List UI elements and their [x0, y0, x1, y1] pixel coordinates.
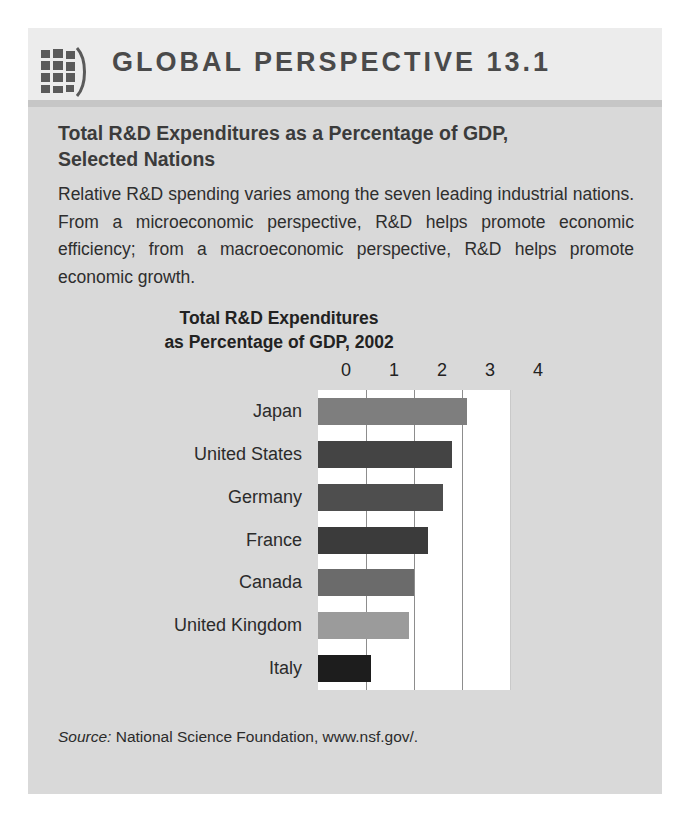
bar-france [318, 527, 428, 554]
chart-title-line-2: as Percentage of GDP, 2002 [28, 330, 530, 354]
x-axis-tick-labels: 01234 [318, 360, 548, 386]
x-tick-3: 3 [478, 360, 502, 381]
box-body-text: Relative R&D spending varies among the s… [58, 181, 634, 291]
y-axis-category-labels: JapanUnited StatesGermanyFranceCanadaUni… [58, 390, 310, 690]
category-label-united-kingdom: United Kingdom [174, 612, 302, 639]
gridline-3 [462, 390, 463, 690]
plot-area [318, 390, 510, 690]
x-tick-0: 0 [334, 360, 358, 381]
box-subtitle: Total R&D Expenditures as a Percentage o… [58, 120, 528, 172]
bar-united-states [318, 441, 452, 468]
category-label-canada: Canada [239, 569, 302, 596]
chart: Total R&D Expenditures as Percentage of … [28, 306, 662, 706]
category-label-italy: Italy [269, 655, 302, 682]
box-header-title: GLOBAL PERSPECTIVE 13.1 [112, 47, 551, 78]
bar-japan [318, 398, 467, 425]
bar-italy [318, 655, 371, 682]
box-header-band: GLOBAL PERSPECTIVE 13.1 [28, 28, 662, 100]
category-label-japan: Japan [253, 398, 302, 425]
bar-canada [318, 569, 414, 596]
page-canvas: GLOBAL PERSPECTIVE 13.1 Total R&D Expend… [0, 0, 689, 821]
globe-icon [37, 45, 91, 99]
gridline-4 [510, 390, 511, 690]
global-perspective-box: GLOBAL PERSPECTIVE 13.1 Total R&D Expend… [28, 28, 662, 794]
chart-title: Total R&D Expenditures as Percentage of … [28, 306, 530, 354]
header-divider [28, 100, 662, 107]
category-label-germany: Germany [228, 484, 302, 511]
chart-title-line-1: Total R&D Expenditures [28, 306, 530, 330]
x-tick-2: 2 [430, 360, 454, 381]
bar-germany [318, 484, 443, 511]
category-label-france: France [246, 527, 302, 554]
bar-united-kingdom [318, 612, 409, 639]
category-label-united-states: United States [194, 441, 302, 468]
source-text: National Science Foundation, www.nsf.gov… [111, 728, 418, 745]
x-tick-1: 1 [382, 360, 406, 381]
source-label: Source: [58, 728, 111, 745]
x-tick-4: 4 [526, 360, 550, 381]
source-note: Source: National Science Foundation, www… [58, 728, 418, 746]
